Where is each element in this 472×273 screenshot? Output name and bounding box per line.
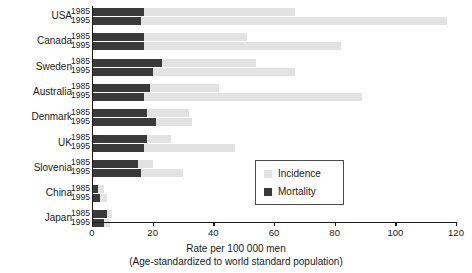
bar-group-row [92,17,456,25]
bar-mortality [92,109,147,117]
x-tick-label: 120 [436,227,472,238]
country-label-usa: USA [0,10,72,21]
bar-mortality [92,42,144,50]
bar-mortality [92,144,144,152]
chart-container: 020406080100120 19851995USA19851995Canad… [0,0,472,273]
country-label-slovenia: Slovenia [0,162,72,173]
bar-mortality [92,210,107,218]
bar-mortality [92,33,144,41]
x-tick-label: 80 [315,227,355,238]
country-label-denmark: Denmark [0,111,72,122]
country-label-australia: Australia [0,86,72,97]
x-tick [335,222,336,226]
x-tick-label: 100 [375,227,415,238]
x-tick-label: 0 [72,227,112,238]
bar-incidence [92,17,447,25]
x-tick [213,222,214,226]
bar-group-row [92,68,456,76]
x-tick-label: 40 [193,227,233,238]
x-axis-subtitle: (Age-standardized to world standard popu… [0,256,472,268]
bar-group-row [92,84,456,92]
bar-group-row [92,59,456,67]
legend-item-incidence: Incidence [264,168,321,179]
legend-label-mortality: Mortality [278,186,316,197]
legend-item-mortality: Mortality [264,186,316,197]
country-label-sweden: Sweden [0,61,72,72]
bar-group-row [92,8,456,16]
bar-group-row [92,118,456,126]
country-label-china: China [0,187,72,198]
legend-label-incidence: Incidence [278,168,321,179]
bar-mortality [92,93,144,101]
x-tick [456,222,457,226]
bar-group-row [92,135,456,143]
x-tick [274,222,275,226]
x-tick-label: 60 [254,227,294,238]
bar-group-row [92,33,456,41]
bar-group-row [92,109,456,117]
legend: Incidence Mortality [255,160,344,205]
bar-group-row [92,93,456,101]
incidence-swatch-icon [264,170,272,178]
country-label-canada: Canada [0,35,72,46]
bar-mortality [92,59,162,67]
bar-mortality [92,160,138,168]
bar-mortality [92,84,150,92]
bar-mortality [92,118,156,126]
bar-mortality [92,68,153,76]
bar-mortality [92,8,144,16]
x-tick [92,222,93,226]
bar-group-row [92,42,456,50]
country-label-uk: UK [0,137,72,148]
mortality-swatch-icon [264,188,272,196]
x-tick-label: 20 [133,227,173,238]
y-axis-line [92,6,93,223]
bar-group-row [92,210,456,218]
bar-mortality [92,169,141,177]
bar-mortality [92,135,147,143]
bar-group-row [92,144,456,152]
bar-mortality [92,17,141,25]
x-tick [153,222,154,226]
x-tick [395,222,396,226]
x-axis-title: Rate per 100 000 men [0,243,472,255]
country-label-japan: Japan [0,212,72,223]
